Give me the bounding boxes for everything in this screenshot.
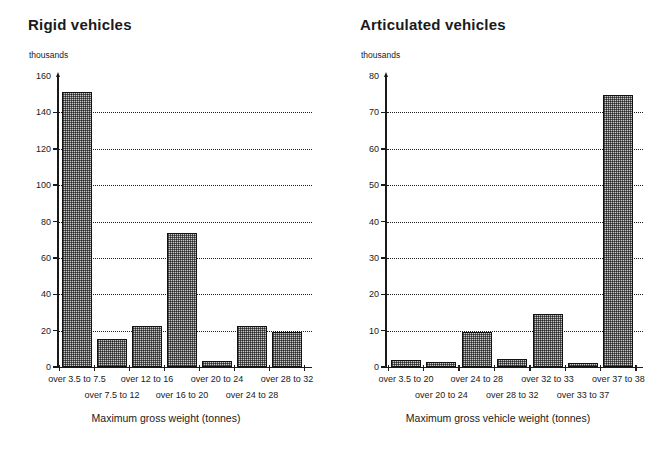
plot-area-rigid: 020406080100120140160 (57, 76, 312, 367)
chart-panel-rigid-vehicles: Rigid vehicles thousands 020406080100120… (0, 0, 332, 449)
bar (533, 314, 563, 367)
y-axis-tick (53, 148, 59, 150)
x-axis-category-label: over 24 to 28 (226, 390, 279, 400)
bar (462, 332, 492, 367)
y-axis-tick-label: 160 (36, 71, 51, 81)
bar (568, 363, 598, 367)
y-axis-tick (53, 184, 59, 186)
x-axis-tick (423, 365, 425, 371)
bar (603, 95, 633, 367)
y-axis-tick-label: 0 (46, 362, 51, 372)
x-axis-category-label: over 3.5 to 7.5 (48, 374, 106, 384)
gridline (59, 112, 312, 113)
y-axis-tick (381, 112, 387, 114)
y-axis-tick-label: 120 (36, 144, 51, 154)
y-axis-tick-label: 30 (369, 253, 379, 263)
x-axis-category-label: over 28 to 32 (486, 390, 539, 400)
x-axis-category-label: over 7.5 to 12 (84, 390, 139, 400)
x-axis-tick (388, 365, 390, 371)
y-axis-tick-label: 140 (36, 107, 51, 117)
y-axis-tick-label: 40 (369, 217, 379, 227)
x-axis-category-label: over 24 to 28 (451, 374, 504, 384)
bar (97, 339, 127, 367)
gridline (59, 185, 312, 186)
x-axis-category-label: over 33 to 37 (557, 390, 610, 400)
y-axis-tick-label: 80 (41, 217, 51, 227)
x-axis-tick (234, 365, 236, 371)
bar (426, 362, 456, 367)
y-axis-tick (381, 366, 387, 368)
y-axis-tick-label: 60 (41, 253, 51, 263)
x-axis-title-articulated: Maximum gross vehicle weight (tonnes) (332, 412, 664, 424)
page-title-articulated: Articulated vehicles (360, 16, 506, 33)
x-axis-tick (529, 365, 531, 371)
x-axis-category-label: over 20 to 24 (415, 390, 468, 400)
y-axis-tick-label: 60 (369, 144, 379, 154)
x-axis-category-label: over 37 to 38 (592, 374, 645, 384)
plot-area-articulated: 01020304050607080 (385, 76, 643, 367)
bar (132, 326, 162, 367)
x-axis-tick (59, 365, 61, 371)
bar (497, 359, 527, 367)
y-axis-tick (381, 330, 387, 332)
y-axis-tick-label: 40 (41, 289, 51, 299)
bar (62, 92, 92, 367)
x-axis-category-label: over 32 to 33 (521, 374, 574, 384)
x-axis-tick (94, 365, 96, 371)
y-axis-tick (53, 330, 59, 332)
x-axis-tick (635, 365, 637, 371)
x-axis-title-rigid: Maximum gross weight (tonnes) (0, 412, 332, 424)
y-axis-tick (53, 112, 59, 114)
y-axis-unit-label-rigid: thousands (29, 50, 68, 60)
y-axis-tick (381, 148, 387, 150)
y-axis-tick-label: 0 (374, 362, 379, 372)
x-axis-tick (565, 365, 567, 371)
bar (237, 326, 267, 367)
y-axis-tick (53, 257, 59, 259)
y-axis-tick-label: 100 (36, 180, 51, 190)
y-axis-tick (381, 257, 387, 259)
x-axis-category-label: over 3.5 to 20 (378, 374, 433, 384)
y-axis-tick-label: 50 (369, 180, 379, 190)
gridline (59, 222, 312, 223)
y-axis-tick (381, 294, 387, 296)
x-axis-tick (129, 365, 131, 371)
bar (272, 332, 302, 367)
x-axis-category-label: over 12 to 16 (121, 374, 174, 384)
x-axis-tick (269, 365, 271, 371)
y-axis-tick (381, 184, 387, 186)
chart-panel-articulated-vehicles: Articulated vehicles thousands 010203040… (332, 0, 664, 449)
x-axis-tick (458, 365, 460, 371)
x-axis-tick (199, 365, 201, 371)
bar (167, 233, 197, 367)
y-axis-tick-label: 20 (41, 326, 51, 336)
y-axis-tick-label: 80 (369, 71, 379, 81)
y-axis-tick-label: 70 (369, 107, 379, 117)
gridline (59, 149, 312, 150)
y-axis-unit-label-articulated: thousands (361, 50, 400, 60)
x-axis-tick (494, 365, 496, 371)
y-axis-tick (381, 221, 387, 223)
x-axis-category-label: over 20 to 24 (191, 374, 244, 384)
bar (391, 360, 421, 367)
x-axis-tick (600, 365, 602, 371)
x-axis-tick (304, 365, 306, 371)
y-axis-tick (53, 294, 59, 296)
y-axis-tick-label: 10 (369, 326, 379, 336)
y-axis-tick-label: 20 (369, 289, 379, 299)
x-axis-tick (164, 365, 166, 371)
x-axis-category-label: over 16 to 20 (156, 390, 209, 400)
x-axis-category-label: over 28 to 32 (261, 374, 314, 384)
page-title-rigid: Rigid vehicles (28, 16, 132, 33)
bar (202, 361, 232, 367)
y-axis-tick (53, 221, 59, 223)
